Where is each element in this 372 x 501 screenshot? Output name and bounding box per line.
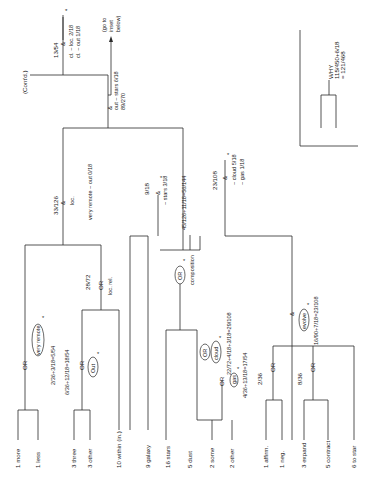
aff-ratio: 2/36 [256,372,263,385]
right-ratio: 23/108 [211,171,218,190]
root-op: & [106,105,113,110]
left-op: & [59,200,66,205]
leaf-10-within: 10 within (in.) [115,431,122,468]
stars-ratio: 9/18 [143,182,150,195]
leaf-6-to-star: 6 to star [350,446,357,468]
out-label: Out [90,364,96,373]
very-remote-label: very remote [35,325,41,355]
cloud-formula: 22/72+4/18+3/18=29/108 [226,312,232,375]
top-cond1: cl. ~ loc. 2/18 [68,25,74,58]
cloud-label: cloud [213,347,219,360]
out-formula: 6/36+12/18=18/54 [64,350,70,395]
leaf-3-three: 3 three [70,448,77,468]
why-inset: WHY 115/450+6/18 = 121/468 [300,30,358,146]
gas-star: * [237,366,240,372]
leaf-3-other: 3 other [86,449,93,468]
gas-label: gas [231,375,237,384]
stars-op: & [154,190,161,195]
locrel-label: loc. rel. [107,277,113,295]
exp-ratio: 8/36 [296,372,303,385]
very-remote-star: * [42,315,45,321]
evolve-op: & [288,311,295,316]
comp-or: OR [177,272,183,280]
root-cond: out ~ stars 6/18 [113,71,119,110]
right-cond1: ~ cloud 5/18 [231,154,237,185]
leaf-1-less: 1 less [34,452,41,468]
leaf-5-dust: 5 dust [186,451,193,468]
goto-1: (go to [101,18,107,32]
cloud-star: * [219,335,222,341]
left-branch: 33/126 & loc. very remote ~ out 0/18 OR … [18,128,119,440]
right-star: * [227,152,230,158]
stars-cond: ~ stars 3/18 [162,176,168,205]
right-op: & [221,175,228,180]
left-sub: loc. [69,196,75,205]
why-result: = 121/468 [339,51,346,79]
leaf-5-contract: 5 contract [324,441,331,468]
comp-star: * [183,258,186,264]
evolve-label: evolve [301,313,307,329]
evolve-star: * [307,302,310,308]
cloud-or: OR [202,349,208,357]
goto-2: inset [108,20,114,32]
leaf-16-stars: 16 stars [164,446,171,468]
tree-diagram: WHY 115/450+6/18 = 121/468 (Cont'd.) 13/… [0,0,372,501]
leaves: 1 more 1 less 3 three 3 other 10 within … [14,431,357,468]
gas-or: OR [218,376,225,386]
top-op: & [59,41,66,46]
gas-formula: 4/36+13/18=17/54 [242,353,248,398]
goto-3: below) [115,15,121,32]
comp-label: composition [189,255,195,285]
out-star: * [97,351,100,357]
top-cond2: cl. ~ out 1/18 [75,26,81,58]
leaf-1-more: 1 more [14,448,21,468]
locrel-ratio: 28/72 [84,274,91,290]
right-cond2: ~ gas 1/18 [239,159,245,185]
left-ratio: 33/126 [52,196,59,215]
leaf-2-some: 2 some [208,447,215,468]
out-or: OR [78,360,85,370]
exp-or: OR [309,362,316,372]
leaf-1-neg: 1 neg. [278,451,285,468]
very-remote-or: OR [21,360,28,370]
mid-total: 45/126+11/18=56/144 [181,176,187,230]
contd-label: (Cont'd.) [21,70,28,94]
top-ratio: 13/54 [52,42,59,58]
leaf-1-affirm: 1 affirm. [262,445,269,468]
root-ratio: 89/270 [120,93,126,110]
aff-or: OR [269,362,276,372]
arrow-up-icon [109,36,113,42]
leaf-2-other: 2 other [228,449,235,468]
very-remote-formula: 2/36+3/18=5/54 [50,346,56,385]
leaf-3-expand: 3 expand [300,442,307,468]
evolve-formula: 16/90+7/18=23/108 [313,296,319,345]
locrel-op: OR [97,280,104,290]
left-cond: very remote ~ out 0/18 [87,164,93,220]
top-star: * [65,7,68,14]
top-section: (Cont'd.) 13/54 & * cl. ~ loc. 2/18 cl. … [21,7,183,128]
right-branch: 23/108 & ~ cloud 5/18 ~ gas 1/18 * & evo… [200,152,354,440]
leaf-9-galaxy: 9 galaxy [144,444,151,468]
